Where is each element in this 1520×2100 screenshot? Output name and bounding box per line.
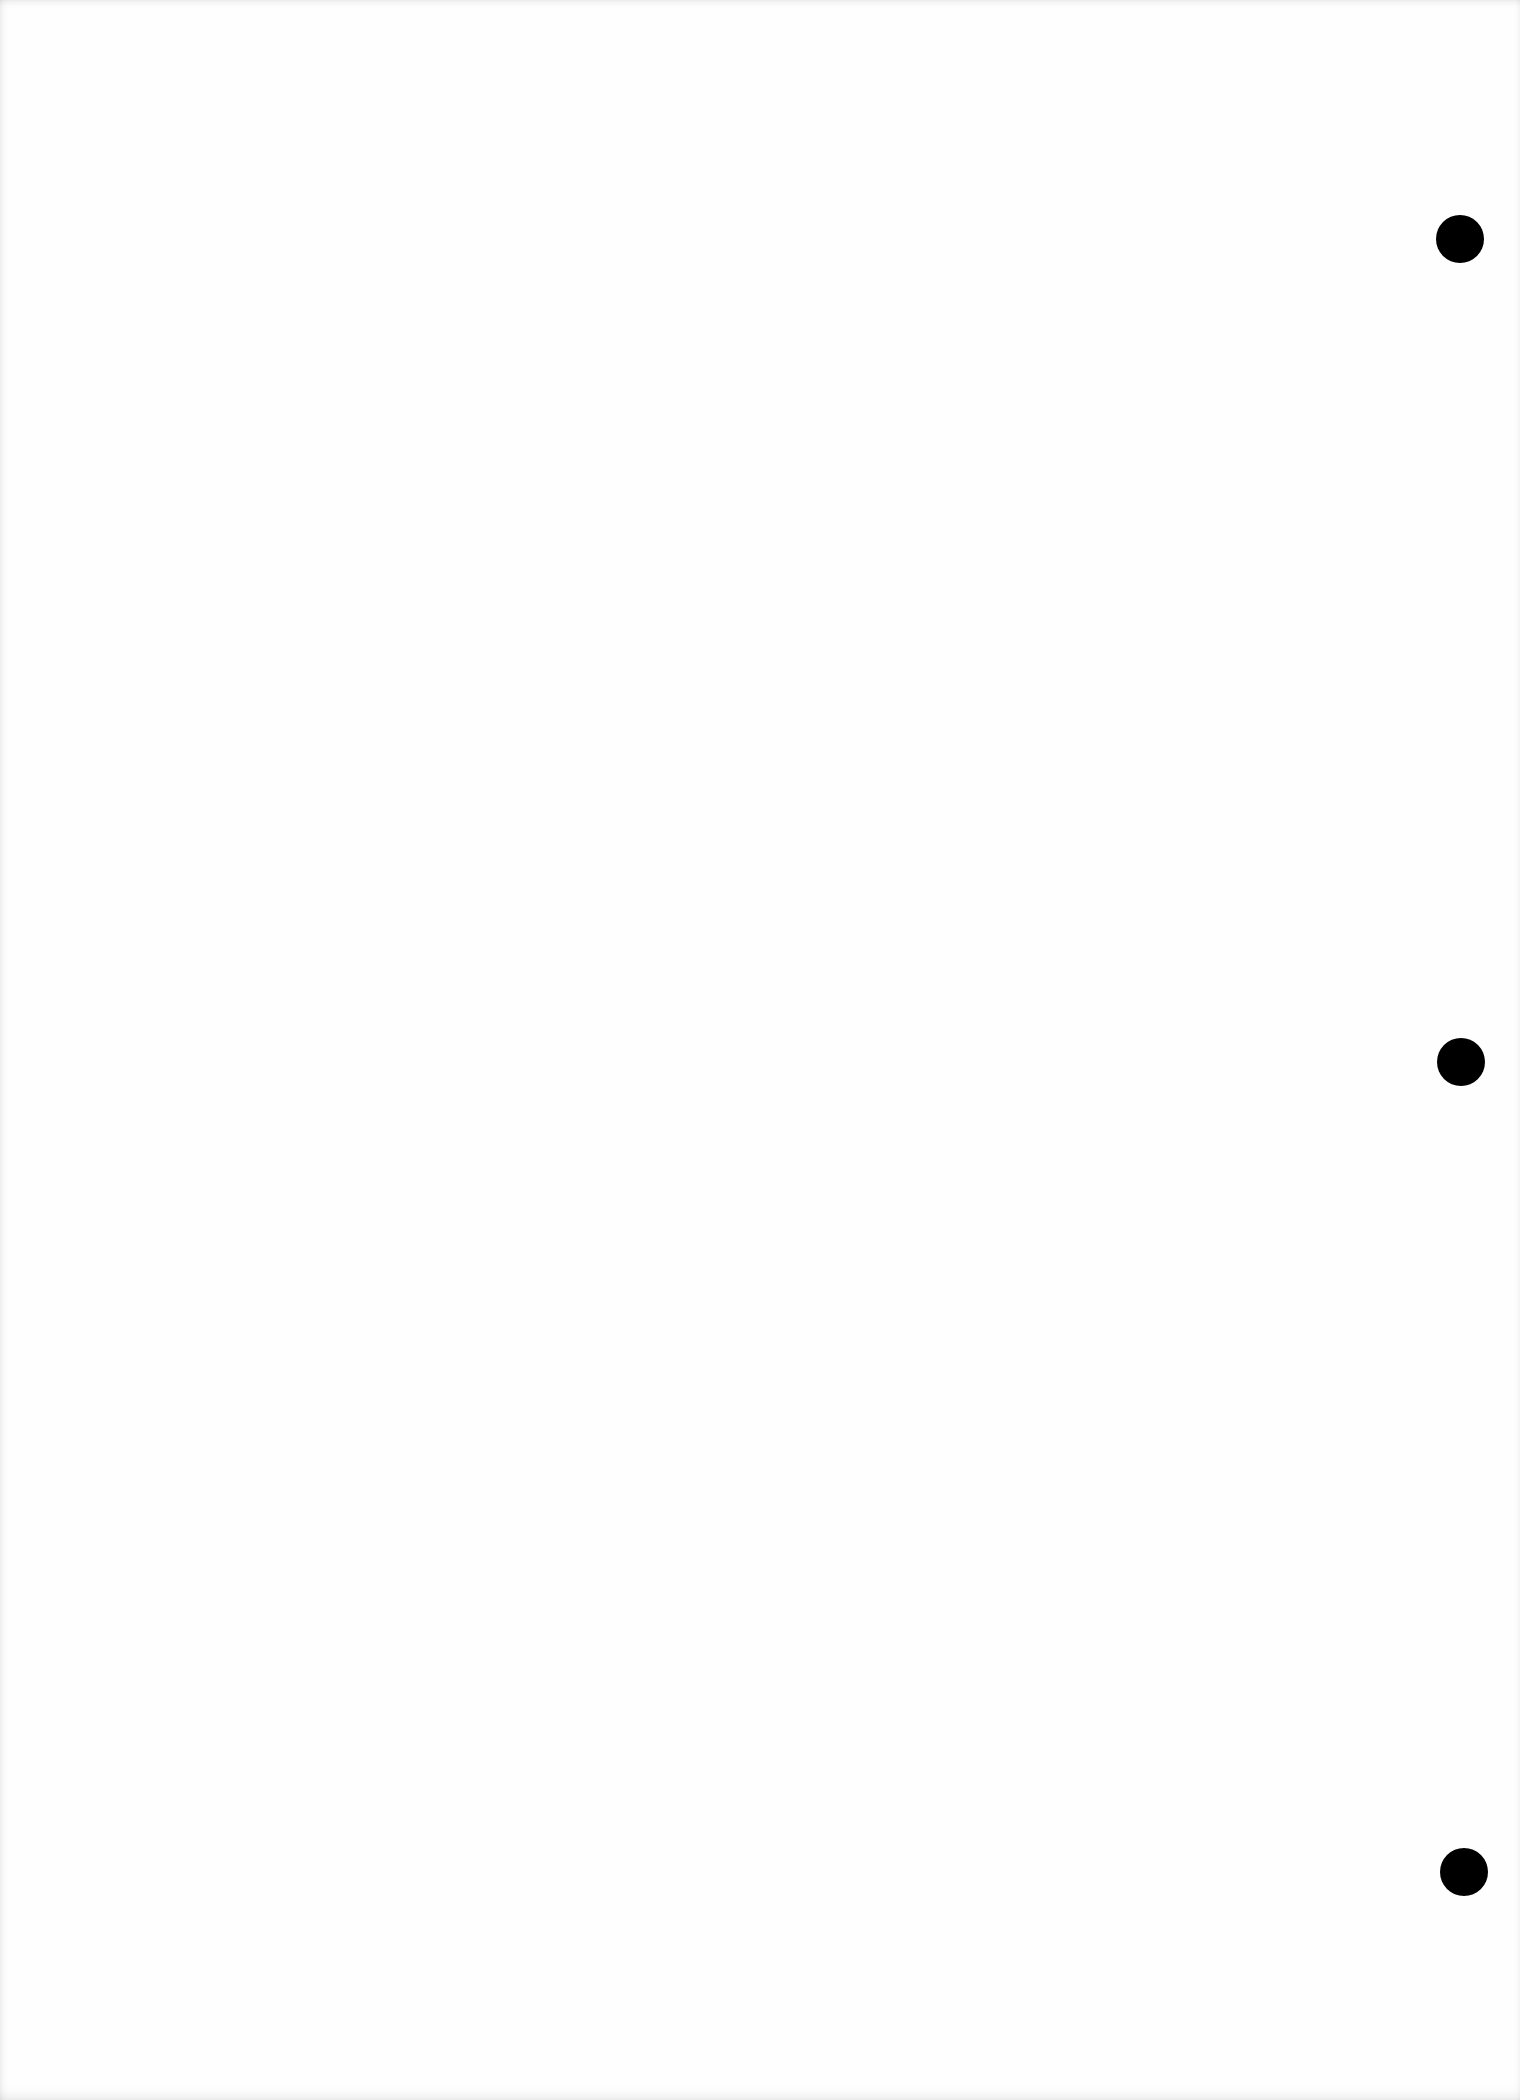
punch-hole-top xyxy=(1436,215,1484,263)
punch-hole-middle xyxy=(1437,1038,1485,1086)
blank-scanned-page xyxy=(0,0,1520,2100)
punch-hole-bottom xyxy=(1440,1848,1488,1896)
